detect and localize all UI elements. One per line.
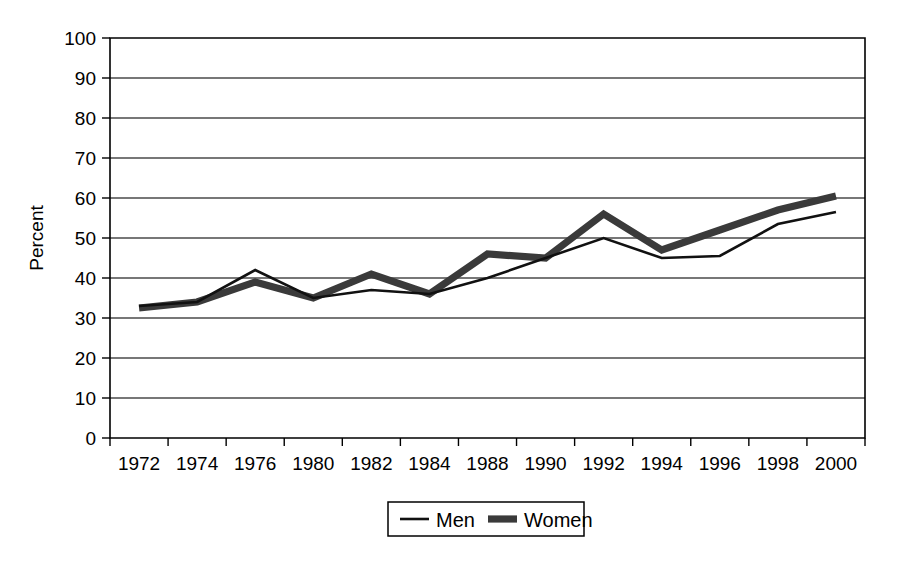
chart-canvas: Percent 0102030405060708090100 197219741… (0, 0, 902, 569)
x-tick-label: 1982 (350, 453, 392, 474)
y-tick-label: 10 (75, 388, 96, 409)
legend-label-men: Men (436, 509, 475, 531)
legend-label-women: Women (524, 509, 593, 531)
y-axis-tick-labels: 0102030405060708090100 (64, 28, 96, 449)
x-axis-tick-marks (110, 438, 865, 446)
x-tick-label: 1976 (234, 453, 276, 474)
x-tick-label: 2000 (815, 453, 857, 474)
y-axis-tick-marks (102, 38, 110, 438)
y-tick-label: 100 (64, 28, 96, 49)
x-axis-tick-labels: 1972197419761980198219841988199019921994… (118, 453, 857, 474)
y-tick-label: 50 (75, 228, 96, 249)
x-tick-label: 1998 (757, 453, 799, 474)
x-tick-label: 1990 (524, 453, 566, 474)
x-tick-label: 1992 (583, 453, 625, 474)
y-tick-label: 40 (75, 268, 96, 289)
line-chart: Percent 0102030405060708090100 197219741… (0, 0, 902, 569)
series-group (139, 196, 836, 308)
x-tick-label: 1972 (118, 453, 160, 474)
y-tick-label: 30 (75, 308, 96, 329)
y-tick-label: 90 (75, 68, 96, 89)
y-tick-label: 80 (75, 108, 96, 129)
x-tick-label: 1974 (176, 453, 219, 474)
y-tick-label: 20 (75, 348, 96, 369)
x-tick-label: 1994 (641, 453, 684, 474)
series-line-women (139, 196, 836, 308)
x-tick-label: 1984 (408, 453, 451, 474)
chart-legend: Men Women (388, 502, 593, 536)
y-axis-title: Percent (26, 205, 47, 271)
y-tick-label: 60 (75, 188, 96, 209)
x-tick-label: 1996 (699, 453, 741, 474)
y-tick-label: 0 (85, 428, 96, 449)
y-tick-label: 70 (75, 148, 96, 169)
x-tick-label: 1980 (292, 453, 334, 474)
x-tick-label: 1988 (466, 453, 508, 474)
